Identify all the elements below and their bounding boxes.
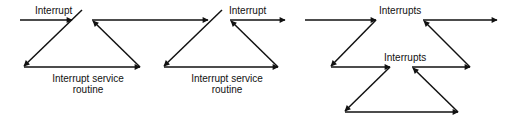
return-arrow bbox=[231, 21, 278, 67]
isr-label: Interrupt service routine bbox=[48, 73, 128, 95]
isr-label-line1: Interrupt service bbox=[48, 73, 128, 84]
isr-label-line2: routine bbox=[187, 84, 267, 95]
nested-interrupt-jump-arrow bbox=[345, 67, 390, 111]
return-arrow bbox=[424, 21, 470, 67]
isr-label-line1: Interrupt service bbox=[187, 73, 267, 84]
interrupts-label: Interrupts bbox=[384, 52, 426, 63]
nested-return-arrow bbox=[413, 68, 458, 112]
interrupt-jump-arrow bbox=[331, 20, 376, 66]
interrupt-flow-diagram bbox=[0, 0, 520, 122]
return-arrow bbox=[93, 21, 140, 67]
interrupt-label: Interrupt bbox=[35, 5, 72, 16]
interrupt-jump-arrow bbox=[164, 10, 222, 66]
interrupt-label: Interrupt bbox=[229, 5, 266, 16]
interrupt-jump-arrow bbox=[24, 10, 82, 66]
isr-label: Interrupt service routine bbox=[187, 73, 267, 95]
interrupts-label: Interrupts bbox=[379, 5, 421, 16]
isr-label-line2: routine bbox=[48, 84, 128, 95]
